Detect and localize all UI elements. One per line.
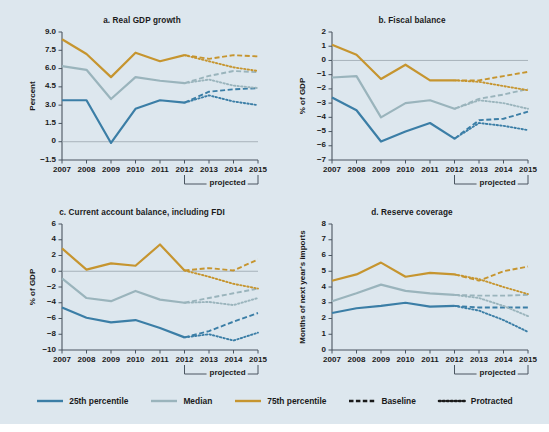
projected-label: projected xyxy=(480,178,516,187)
legend-swatch-solid xyxy=(234,398,262,404)
x-tick-label: 2015 xyxy=(243,165,273,174)
legend-label: Protracted xyxy=(471,396,513,406)
y-tick-label: 0 xyxy=(298,345,326,354)
legend-item[interactable]: 75th percentile xyxy=(234,396,326,406)
y-tick-label: 2 xyxy=(298,27,326,36)
series-line xyxy=(455,80,529,90)
x-tick-label: 2015 xyxy=(513,165,543,174)
y-tick-label: −8 xyxy=(28,329,56,338)
legend-item[interactable]: 25th percentile xyxy=(36,396,128,406)
series-line xyxy=(62,307,185,337)
y-tick-label: 0 xyxy=(298,55,326,64)
y-axis-label: % of GDP xyxy=(298,78,307,114)
series-line xyxy=(455,100,529,109)
y-tick-label: 9.0 xyxy=(28,27,56,36)
y-tick-label: 6.0 xyxy=(28,63,56,72)
y-tick-label: 2 xyxy=(28,250,56,259)
series-line xyxy=(185,80,259,89)
series-line xyxy=(332,45,455,81)
series-line xyxy=(455,72,529,81)
y-tick-label: 6 xyxy=(28,219,56,228)
legend-swatch-dotted xyxy=(438,398,466,404)
series-line xyxy=(62,244,185,270)
legend-item[interactable]: Median xyxy=(150,396,212,406)
panel-b-fiscal-balance: b. Fiscal balance 210−1−2−3−4−5−6−720072… xyxy=(278,16,546,206)
series-line xyxy=(185,313,259,337)
figure-canvas: a. Real GDP growth 9.07.56.04.53.01.50−1… xyxy=(0,0,549,424)
y-tick-label: −7 xyxy=(298,155,326,164)
legend-label: Baseline xyxy=(381,396,415,406)
legend-swatch-solid xyxy=(36,398,64,404)
y-tick-label: −5 xyxy=(298,126,326,135)
series-line xyxy=(62,66,185,99)
x-tick-label: 2015 xyxy=(513,355,543,364)
legend-label: 75th percentile xyxy=(267,396,326,406)
y-tick-label: 0 xyxy=(28,136,56,145)
projected-label: projected xyxy=(480,368,516,377)
x-tick-label: 2015 xyxy=(243,355,273,364)
y-tick-label: 1 xyxy=(298,41,326,50)
series-line xyxy=(455,306,529,332)
series-line xyxy=(332,76,455,117)
y-axis-label: Percent xyxy=(28,81,37,110)
series-line xyxy=(185,270,259,288)
projected-label: projected xyxy=(210,178,246,187)
panel-d-reserve-coverage: d. Reserve coverage 87654321020072008200… xyxy=(278,208,546,390)
y-tick-label: −6 xyxy=(28,313,56,322)
panel-a-real-gdp-growth: a. Real GDP growth 9.07.56.04.53.01.50−1… xyxy=(6,16,278,206)
legend-swatch-dashed xyxy=(348,398,376,404)
legend-label: Median xyxy=(183,396,212,406)
legend-item[interactable]: Protracted xyxy=(438,396,513,406)
series-line xyxy=(455,295,529,316)
series-line xyxy=(455,267,529,281)
series-line xyxy=(455,123,529,139)
series-line xyxy=(332,263,455,281)
legend-label: 25th percentile xyxy=(69,396,128,406)
series-line xyxy=(62,39,185,77)
y-tick-label: −10 xyxy=(28,345,56,354)
series-line xyxy=(185,289,259,303)
series-line xyxy=(455,274,529,294)
projected-label: projected xyxy=(210,368,246,377)
y-axis-label: % of GDP xyxy=(28,269,37,305)
series-line xyxy=(185,259,259,270)
legend-swatch-solid xyxy=(150,398,178,404)
series-line xyxy=(185,88,259,103)
series-line xyxy=(62,278,185,302)
y-tick-label: 4 xyxy=(28,234,56,243)
chart-legend: 25th percentileMedian75th percentileBase… xyxy=(0,390,549,412)
y-tick-label: −1.5 xyxy=(28,155,56,164)
y-tick-label: 8 xyxy=(298,219,326,228)
y-tick-label: 1.5 xyxy=(28,118,56,127)
series-line xyxy=(185,55,259,71)
series-line xyxy=(332,97,455,141)
y-tick-label: −6 xyxy=(298,140,326,149)
legend-item[interactable]: Baseline xyxy=(348,396,415,406)
panel-c-current-account-balance: c. Current account balance, including FD… xyxy=(6,208,278,390)
y-tick-label: 7.5 xyxy=(28,45,56,54)
series-line xyxy=(332,303,455,313)
y-axis-label: Months of next year's imports xyxy=(298,230,307,343)
series-line xyxy=(62,100,185,143)
series-line xyxy=(332,285,455,302)
series-line xyxy=(185,298,259,305)
